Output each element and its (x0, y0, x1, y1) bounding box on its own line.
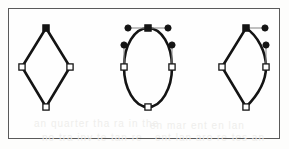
shape-diamond-corner-outline[interactable] (22, 28, 70, 107)
figure-root: ent lan aro re tes anno tra inv te tan r… (0, 0, 289, 149)
shape-ellipse-smooth-anchor-left[interactable] (121, 64, 127, 70)
shape-ellipse-smooth-anchor-top[interactable] (145, 25, 151, 31)
shape-ellipse-smooth-handle-left-up[interactable] (121, 42, 127, 48)
shape-ellipse-smooth (121, 25, 175, 110)
vector-illustration-canvas (0, 0, 289, 149)
shape-ellipse-smooth-anchor-bottom[interactable] (145, 104, 151, 110)
shape-diamond-mixed (219, 25, 269, 110)
shape-diamond-mixed-anchor-left[interactable] (219, 64, 225, 70)
shape-ellipse-smooth-handle-right-up[interactable] (169, 42, 175, 48)
shape-ellipse-smooth-handle-top-right[interactable] (165, 25, 171, 31)
shape-ellipse-smooth-handle-top-left[interactable] (125, 25, 131, 31)
shape-diamond-mixed-anchor-bottom[interactable] (243, 104, 249, 110)
shape-diamond-mixed-outline[interactable] (222, 28, 266, 107)
shape-diamond-corner (19, 25, 73, 110)
shape-diamond-corner-anchor-left[interactable] (19, 64, 25, 70)
shape-diamond-corner-anchor-top[interactable] (43, 25, 49, 31)
shape-ellipse-smooth-outline[interactable] (124, 28, 172, 107)
shape-diamond-mixed-handle-top-right[interactable] (262, 25, 268, 31)
shape-ellipse-smooth-anchor-right[interactable] (169, 64, 175, 70)
shape-diamond-corner-anchor-right[interactable] (67, 64, 73, 70)
shape-diamond-mixed-anchor-top[interactable] (243, 25, 249, 31)
shape-diamond-corner-anchor-bottom[interactable] (43, 104, 49, 110)
shape-diamond-mixed-handle-right-up[interactable] (263, 42, 269, 48)
shape-diamond-mixed-anchor-right[interactable] (263, 64, 269, 70)
